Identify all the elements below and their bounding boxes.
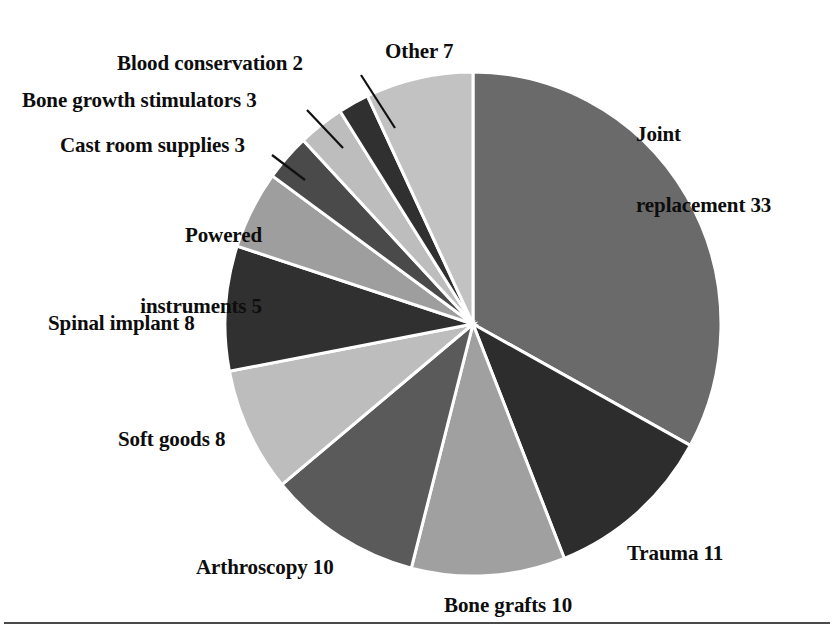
slice-label-arthroscopy: Arthroscopy 10 bbox=[196, 556, 334, 580]
slice-label-trauma: Trauma 11 bbox=[627, 542, 723, 566]
pie-chart-figure: Joint replacement 33 Trauma 11 Bone graf… bbox=[0, 0, 834, 643]
page-corner-mark bbox=[8, 630, 24, 642]
slice-label-joint-replacement-line2: replacement 33 bbox=[636, 194, 771, 218]
slice-label-bone-grafts: Bone grafts 10 bbox=[444, 594, 572, 618]
slice-label-powered-instruments: Powered instruments 5 bbox=[96, 177, 262, 365]
slice-label-joint-replacement: Joint replacement 33 bbox=[636, 76, 771, 264]
slice-label-cast-room-supplies: Cast room supplies 3 bbox=[60, 134, 245, 158]
slice-label-powered-instruments-line2: instruments 5 bbox=[96, 295, 262, 319]
slice-label-blood-conservation: Blood conservation 2 bbox=[117, 52, 303, 76]
slice-label-powered-instruments-line1: Powered bbox=[96, 224, 262, 248]
slice-label-bone-growth-stimulators: Bone growth stimulators 3 bbox=[22, 89, 257, 113]
slice-label-soft-goods: Soft goods 8 bbox=[118, 428, 225, 452]
slice-label-joint-replacement-line1: Joint bbox=[636, 123, 771, 147]
footer-divider bbox=[4, 622, 830, 624]
slice-label-other: Other 7 bbox=[385, 40, 453, 64]
